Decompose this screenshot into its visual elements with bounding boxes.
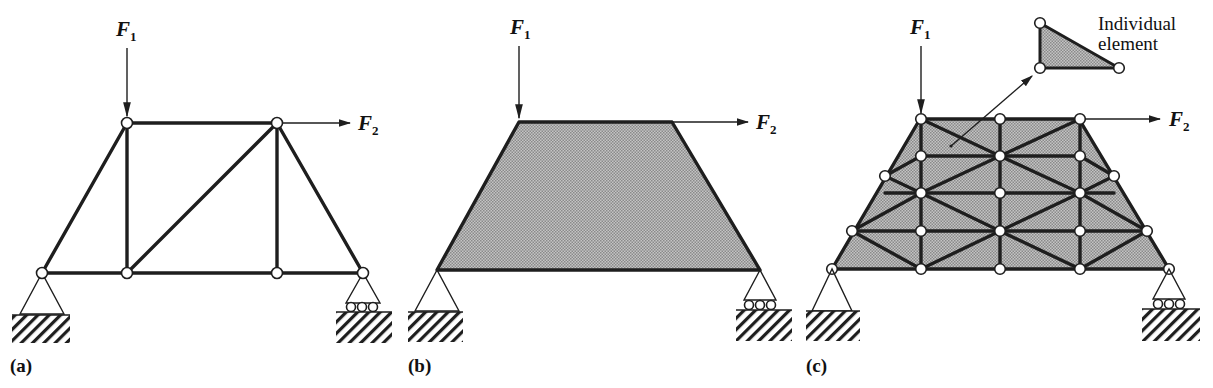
trapezoid-body [437,122,760,270]
panel-label-c: (c) [806,355,827,377]
roller-support-right [336,273,392,343]
right-diagonal-member [277,123,363,273]
pin-support-left [12,273,70,343]
roller-support-right [736,270,792,341]
force-label-f2: F2 [755,110,777,137]
force-label-f1: F1 [909,15,931,42]
figure-canvas: F1 F2 (a) F1 F2 (b) [0,0,1213,388]
node [272,268,283,279]
callout-text-line1: Individual [1098,13,1176,34]
panel-a-truss: F1 F2 (a) [10,17,392,377]
panel-b-continuum: F1 F2 (b) [408,15,792,377]
force-label-f2: F2 [357,111,379,138]
force-label-f1: F1 [115,17,137,44]
panel-c-fe-mesh: Individual element F1 F2 (c) [806,13,1200,377]
pin-support-left [408,270,463,342]
node [37,268,48,279]
node [272,118,283,129]
callout-text-line2: element [1098,33,1159,54]
force-label-f1: F1 [509,15,531,42]
panel-label-b: (b) [408,355,431,377]
node [122,268,133,279]
truss-members [42,123,363,273]
pin-support-left [806,269,860,341]
panel-label-a: (a) [10,355,32,377]
force-label-f2: F2 [1168,107,1190,134]
node [122,118,133,129]
left-diagonal-member [42,123,127,273]
node [358,268,369,279]
roller-support-right [1142,269,1200,341]
center-diagonal-member [127,123,277,273]
